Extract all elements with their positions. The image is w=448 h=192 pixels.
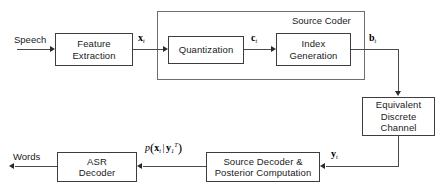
block-source-decoder-posterior-label: Source Decoder & Posterior Computation	[215, 156, 312, 179]
block-quantization-label: Quantization	[179, 44, 234, 56]
block-source-decoder-posterior[interactable]: Source Decoder & Posterior Computation	[206, 152, 320, 182]
block-asr-decoder-label: ASR Decoder	[79, 156, 116, 179]
label-signal-b-t: bt	[369, 32, 376, 44]
label-words: Words	[13, 151, 40, 162]
label-posterior-probability: p(xt|y1T)	[145, 140, 182, 156]
block-index-generation-label: Index Generation	[289, 38, 337, 61]
block-quantization[interactable]: Quantization	[168, 36, 244, 64]
block-equivalent-discrete-channel-label: Equivalent Discrete Channel	[376, 99, 421, 134]
arrowhead-quantization-input	[163, 46, 168, 52]
label-signal-y-t: yt	[331, 148, 338, 160]
label-signal-x-t: xt	[138, 32, 145, 44]
connector-channel-to-source-decoder-vertical	[398, 136, 399, 167]
connector-index-generation-to-channel-vertical	[398, 49, 399, 91]
connector-asr-decoder-to-words	[15, 166, 57, 167]
group-source-coder-label: Source Coder	[292, 15, 351, 26]
connector-index-generation-to-channel-horizontal	[351, 49, 399, 50]
label-speech: Speech	[14, 34, 46, 45]
label-signal-c-t: ct	[251, 32, 257, 44]
arrowhead-index-generation-input	[271, 46, 276, 52]
arrowhead-asr-decoder-input	[137, 163, 142, 169]
connector-quantization-to-index-generation	[244, 49, 271, 50]
arrowhead-source-decoder-input	[320, 163, 325, 169]
block-equivalent-discrete-channel[interactable]: Equivalent Discrete Channel	[362, 97, 435, 136]
arrowhead-words-output	[9, 163, 14, 169]
block-feature-extraction[interactable]: Feature Extraction	[55, 33, 133, 66]
block-diagram: Source Coder Feature Extraction Quantiza…	[0, 0, 448, 192]
block-index-generation[interactable]: Index Generation	[276, 33, 351, 66]
connector-feature-extraction-to-quantization	[133, 49, 163, 50]
block-asr-decoder[interactable]: ASR Decoder	[57, 152, 137, 182]
connector-source-decoder-to-asr-decoder	[143, 166, 206, 167]
arrowhead-feature-extraction-input	[50, 46, 55, 52]
connector-speech-to-feature-extraction	[17, 49, 50, 50]
arrowhead-channel-input	[395, 91, 401, 96]
block-feature-extraction-label: Feature Extraction	[72, 38, 115, 61]
connector-channel-to-source-decoder-horizontal	[326, 166, 398, 167]
